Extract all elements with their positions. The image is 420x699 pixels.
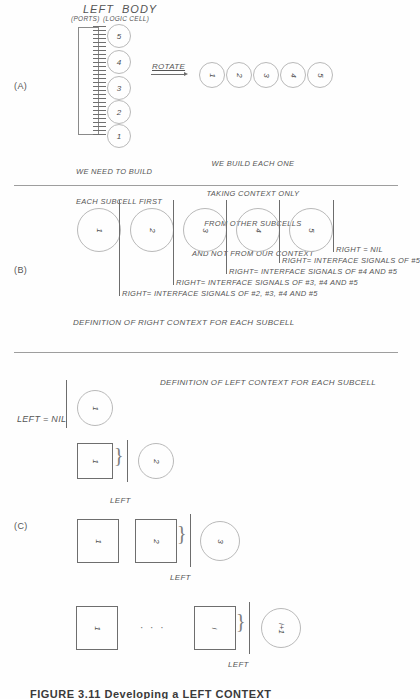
- subcell-circle-b-3: 3: [183, 208, 227, 252]
- logic-circle-4-label: 4: [117, 58, 121, 67]
- rotate-arrow-head: [184, 72, 188, 76]
- left-context-line-row1: [66, 380, 67, 428]
- subcell-circle-b-5-label: 5: [306, 228, 315, 232]
- right-label-4: RIGHT= INTERFACE SIGNALS OF #4 AND #5: [229, 267, 397, 276]
- subcell-circle-c3-3: 3: [200, 521, 240, 561]
- subcell-circle-b-1-label: 1: [94, 228, 103, 232]
- logic-circle-3: 3: [107, 76, 131, 100]
- subcell-square-c3-2-label: 2: [151, 539, 160, 543]
- right-label-5: RIGHT= INTERFACE SIGNALS OF #5: [282, 256, 420, 265]
- divider-a-b: [14, 185, 398, 186]
- logic-circle-4: 4: [107, 50, 131, 74]
- subcell-circle-c4-next-label: i+1: [277, 623, 286, 634]
- subcell-circle-b-1: 1: [77, 208, 121, 252]
- logic-circle-5-label: 5: [117, 32, 121, 41]
- figure-bottom-caption: FIGURE 3.11 Developing a LEFT CONTEXT: [30, 688, 272, 699]
- subcell-circle-c3-3-label: 3: [215, 539, 224, 543]
- rotate-label: ROTATE: [152, 62, 185, 71]
- left-context-line-row2: [127, 440, 128, 482]
- section-a-label: (A): [14, 81, 27, 91]
- ports-subtitle: (PORTS): [71, 15, 100, 22]
- logic-circle-5: 5: [107, 24, 131, 48]
- subcell-square-c2-1: 1: [77, 443, 113, 479]
- rotated-circle-5: 5: [307, 62, 333, 88]
- subcell-square-c3-2: 2: [135, 519, 177, 563]
- subcell-square-c3-1: 1: [77, 519, 119, 563]
- section-c-label: (C): [14, 521, 28, 531]
- note-right-line-2: TAKING CONTEXT ONLY: [192, 189, 314, 199]
- left-body-title: LEFT BODY: [83, 3, 157, 15]
- subcell-square-c4-first-label: 1: [92, 626, 101, 630]
- right-context-line-5: [279, 200, 280, 263]
- subcell-square-c4-i-label: i: [211, 627, 220, 629]
- subcell-circle-c4-next: i+1: [261, 608, 301, 648]
- subcell-square-c2-1-label: 1: [90, 459, 99, 463]
- section-b-caption: DEFINITION OF RIGHT CONTEXT FOR EACH SUB…: [73, 318, 295, 327]
- subcell-square-c4-i: i: [194, 606, 236, 650]
- subcell-circle-b-2: 2: [130, 208, 174, 252]
- rotated-circle-1-label: 1: [207, 73, 216, 77]
- right-context-line-3: [173, 200, 174, 285]
- brace-row4: }: [236, 611, 246, 631]
- subcell-circle-c1-1: 1: [77, 390, 113, 426]
- right-label-2: RIGHT= INTERFACE SIGNALS OF #2, #3, #4 A…: [122, 289, 318, 298]
- subcell-circle-c2-2-label: 2: [151, 459, 160, 463]
- subcell-circle-b-5: 5: [289, 208, 333, 252]
- subcell-circle-b-3-label: 3: [200, 228, 209, 232]
- rotated-circle-5-label: 5: [315, 73, 324, 77]
- subcell-square-c3-1-label: 1: [93, 539, 102, 543]
- subcell-square-c4-first: 1: [76, 606, 118, 650]
- section-b-label: (B): [14, 265, 27, 275]
- rotated-circle-4-label: 4: [288, 73, 297, 77]
- left-context-line-row3: [190, 514, 191, 567]
- right-context-line-nil: [333, 200, 334, 252]
- rotate-arrow-line: [151, 74, 185, 75]
- left-label-row2: LEFT: [110, 496, 131, 505]
- rotated-circle-1: 1: [199, 62, 225, 88]
- brace-row3: }: [177, 523, 187, 543]
- right-label-3: RIGHT= INTERFACE SIGNALS OF #3, #4 AND #…: [176, 278, 358, 287]
- note-right-line-1: WE BUILD EACH ONE: [192, 159, 314, 169]
- subcell-circle-b-2-label: 2: [147, 228, 156, 232]
- subcell-ellipsis: · · ·: [140, 622, 166, 633]
- ports-hatching: [93, 26, 106, 136]
- right-context-line-4: [226, 200, 227, 274]
- left-label-row3: LEFT: [170, 573, 191, 582]
- rotated-circle-4: 4: [280, 62, 306, 88]
- right-context-line-2: [119, 200, 120, 296]
- logic-cell-subtitle: (LOGIC CELL): [103, 15, 149, 22]
- left-label-row4: LEFT: [228, 660, 249, 669]
- rotated-circle-2-label: 2: [234, 73, 243, 77]
- subcell-circle-b-4-label: 4: [253, 228, 262, 232]
- subcell-circle-c2-2: 2: [138, 443, 174, 479]
- note-left-line-1: WE NEED TO BUILD: [76, 167, 162, 177]
- logic-circle-2: 2: [107, 100, 131, 124]
- left-context-line-row4: [249, 602, 250, 654]
- logic-circle-3-label: 3: [117, 84, 121, 93]
- logic-circle-2-label: 2: [117, 108, 121, 117]
- rotated-circle-3-label: 3: [261, 73, 270, 77]
- right-label-nil: RIGHT = NIL: [336, 245, 383, 254]
- rotated-circle-2: 2: [226, 62, 252, 88]
- subcell-circle-c1-1-label: 1: [90, 406, 99, 410]
- rotated-circle-3: 3: [253, 62, 279, 88]
- divider-b-c: [14, 352, 398, 353]
- logic-circle-1-label: 1: [117, 132, 121, 141]
- subcell-circle-b-4: 4: [236, 208, 280, 252]
- section-c-caption: DEFINITION OF LEFT CONTEXT FOR EACH SUBC…: [160, 378, 376, 387]
- left-nil-label: LEFT = NIL: [17, 414, 66, 424]
- logic-circle-1: 1: [107, 124, 131, 148]
- brace-row2: }: [114, 445, 124, 465]
